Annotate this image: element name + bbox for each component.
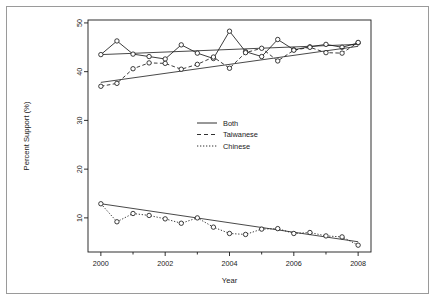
- data-point-marker: [195, 216, 199, 220]
- legend-label: Chinese: [223, 142, 250, 151]
- legend-label: Taiwanese: [223, 130, 258, 139]
- data-point-marker: [292, 48, 296, 52]
- data-point-marker: [211, 225, 215, 229]
- data-point-marker: [227, 29, 231, 33]
- data-point-marker: [131, 211, 135, 215]
- data-point-marker: [259, 46, 263, 50]
- data-point-marker: [227, 231, 231, 235]
- data-point-marker: [276, 59, 280, 63]
- figure-root: 102030405020002002200420062008 BothTaiwa…: [0, 0, 435, 300]
- y-tick-label: 20: [76, 165, 85, 173]
- x-axis-title: Year: [222, 276, 238, 285]
- data-point-marker: [324, 42, 328, 46]
- series-polyline: [101, 204, 358, 245]
- x-tick-label: 2006: [286, 259, 302, 268]
- x-tick-label: 2000: [93, 259, 109, 268]
- data-point-marker: [324, 234, 328, 238]
- data-point-marker: [115, 39, 119, 43]
- x-tick-label: 2008: [350, 259, 366, 268]
- data-point-marker: [99, 52, 103, 56]
- data-point-marker: [179, 43, 183, 47]
- series-both: [99, 29, 361, 61]
- data-point-marker: [195, 62, 199, 66]
- data-point-marker: [356, 243, 360, 247]
- legend-label: Both: [223, 119, 238, 128]
- legend-entry-chinese: Chinese: [197, 142, 250, 151]
- y-tick-label: 40: [76, 68, 85, 76]
- data-point-marker: [99, 202, 103, 206]
- data-point-marker: [115, 220, 119, 224]
- labels-layer: YearPercent Support (%): [22, 101, 238, 285]
- data-point-marker: [163, 57, 167, 61]
- y-tick-label: 10: [76, 214, 85, 222]
- data-point-marker: [147, 54, 151, 58]
- data-point-marker: [340, 235, 344, 239]
- data-point-marker: [227, 66, 231, 70]
- data-point-marker: [131, 67, 135, 71]
- chart-canvas: 102030405020002002200420062008 BothTaiwa…: [0, 0, 435, 300]
- data-point-marker: [276, 37, 280, 41]
- data-point-marker: [276, 226, 280, 230]
- y-axis-title: Percent Support (%): [22, 101, 31, 170]
- data-point-marker: [147, 61, 151, 65]
- data-point-marker: [195, 51, 199, 55]
- legend-layer: BothTaiwaneseChinese: [197, 119, 258, 151]
- x-tick-label: 2004: [222, 259, 238, 268]
- data-point-marker: [292, 231, 296, 235]
- data-point-marker: [211, 55, 215, 59]
- x-tick-label: 2002: [157, 259, 173, 268]
- series-taiwanese: [99, 40, 361, 88]
- series-trend-line: [101, 46, 358, 82]
- data-point-marker: [259, 227, 263, 231]
- data-point-marker: [115, 81, 119, 85]
- data-point-marker: [179, 67, 183, 71]
- data-point-marker: [163, 61, 167, 65]
- data-point-marker: [259, 54, 263, 58]
- legend-entry-taiwanese: Taiwanese: [197, 130, 258, 139]
- data-point-marker: [179, 221, 183, 225]
- data-point-marker: [308, 45, 312, 49]
- legend-entry-both: Both: [197, 119, 238, 128]
- data-point-marker: [356, 40, 360, 44]
- data-point-marker: [340, 51, 344, 55]
- data-point-marker: [99, 84, 103, 88]
- series-polyline: [101, 31, 358, 59]
- data-point-marker: [131, 52, 135, 56]
- data-point-marker: [147, 213, 151, 217]
- data-point-marker: [243, 50, 247, 54]
- series-chinese: [99, 202, 361, 248]
- data-point-marker: [324, 50, 328, 54]
- series-trend-line: [101, 44, 358, 54]
- y-tick-label: 30: [76, 116, 85, 124]
- y-tick-label: 50: [76, 19, 85, 27]
- data-point-marker: [163, 217, 167, 221]
- data-point-marker: [243, 232, 247, 236]
- data-point-marker: [308, 230, 312, 234]
